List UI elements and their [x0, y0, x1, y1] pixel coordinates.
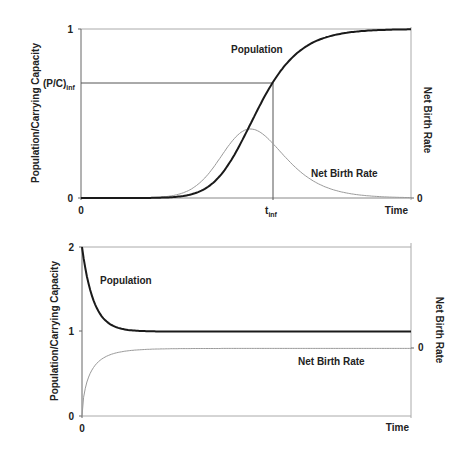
right-axis-label: Net Birth Rate [422, 87, 433, 154]
x-axis-label-time: Time [385, 205, 409, 216]
y-tick-0: 0 [68, 411, 74, 422]
x-tick-t-inf: tinf [265, 205, 278, 218]
population-curve [82, 247, 411, 332]
net-birth-rate-label: Net Birth Rate [311, 168, 378, 179]
bottom-chart: 2 1 0 0 Time 0 Population Net Birth Rate… [49, 242, 445, 434]
net-birth-rate-label: Net Birth Rate [298, 356, 365, 367]
y-tick-0: 0 [67, 193, 73, 204]
y-axis-label: Population/Carrying Capacity [30, 43, 41, 183]
y-axis-label: Population/Carrying Capacity [49, 261, 60, 401]
right-tick-0: 0 [417, 193, 423, 204]
y-tick-2: 2 [68, 242, 74, 253]
population-label: Population [100, 275, 152, 286]
x-tick-0: 0 [79, 423, 85, 434]
net-birth-rate-curve [81, 129, 411, 198]
figure: 1 0 (P/C)inf 0 tinf Time 0 Population Ne… [0, 0, 462, 449]
right-tick-0: 0 [418, 342, 424, 353]
x-axis-label-time: Time [386, 422, 410, 433]
y-tick-pc-inf: (P/C)inf [43, 78, 76, 91]
population-label: Population [231, 44, 283, 55]
y-tick-1: 1 [67, 24, 73, 35]
right-axis-label: Net Birth Rate [434, 297, 445, 364]
y-tick-1: 1 [68, 326, 74, 337]
x-tick-0: 0 [78, 205, 84, 216]
top-chart: 1 0 (P/C)inf 0 tinf Time 0 Population Ne… [30, 24, 433, 218]
